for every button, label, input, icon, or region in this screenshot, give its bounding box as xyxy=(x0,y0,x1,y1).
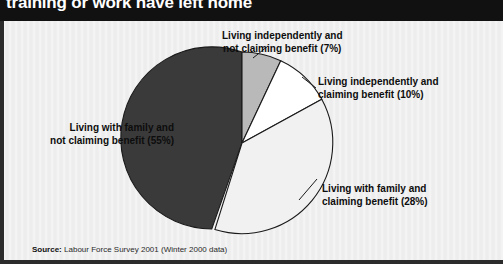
source-text: Labour Force Survey 2001 (Winter 2000 da… xyxy=(64,245,227,254)
label-living-with-family-claiming: Living with family and claiming benefit … xyxy=(322,183,428,208)
label-line-2: not claiming benefit (7%) xyxy=(222,43,343,56)
source-label: Source: xyxy=(32,245,62,254)
label-line-1: Living with family and xyxy=(322,183,426,194)
label-line-1: Living with family and xyxy=(70,122,174,133)
label-living-independently-not-claiming: Living independently and not claiming be… xyxy=(222,30,343,55)
label-line-2: claiming benefit (10%) xyxy=(318,89,439,102)
label-line-2: claiming benefit (28%) xyxy=(322,196,428,209)
label-line-1: Living independently and xyxy=(222,30,343,41)
label-line-1: Living independently and xyxy=(318,76,439,87)
pie-chart-figure: training or work have left home Living i… xyxy=(0,0,503,264)
label-line-2: not claiming benefit (55%) xyxy=(22,135,174,148)
label-living-with-family-not-claiming: Living with family and not claiming bene… xyxy=(22,122,174,147)
source-note: Source: Labour Force Survey 2001 (Winter… xyxy=(32,245,227,254)
label-living-independently-claiming: Living independently and claiming benefi… xyxy=(318,76,439,101)
